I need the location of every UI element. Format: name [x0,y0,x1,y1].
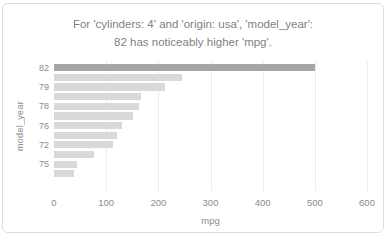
x-tick-label: 200 [150,197,166,208]
bar [54,170,74,177]
x-tick-label: 600 [359,197,375,208]
x-tick-label: 400 [255,197,271,208]
bar [54,74,182,81]
gridline [263,61,264,191]
gridline [367,61,368,191]
bar-model-year-78 [54,103,139,110]
bar [54,93,141,100]
bar-model-year-75 [54,161,77,168]
bar [54,112,133,119]
x-tick-label: 500 [307,197,323,208]
chart-title: For 'cylinders: 4' and 'origin: usa', 'm… [3,15,383,51]
gridline [315,61,316,191]
y-tick-label: 75 [3,159,49,169]
y-axis-ticks: 827978767275 [3,61,49,191]
x-tick-label: 0 [51,197,56,208]
x-tick-label: 300 [203,197,219,208]
x-tick-label: 100 [98,197,114,208]
gridline [211,61,212,191]
chart-title-line-2: 82 has noticeably higher 'mpg'. [3,33,383,51]
bar [54,132,117,139]
bar [54,151,94,158]
y-tick-label: 72 [3,140,49,150]
chart-title-line-1: For 'cylinders: 4' and 'origin: usa', 'm… [3,15,383,33]
bar-model-year-82 [54,64,315,71]
y-tick-label: 78 [3,101,49,111]
y-tick-label: 76 [3,121,49,131]
bar-model-year-76 [54,122,122,129]
plot-area [54,61,367,191]
y-tick-label: 82 [3,63,49,73]
bar-model-year-79 [54,83,165,90]
x-axis-ticks: 0100200300400500600 [54,197,367,209]
y-tick-label: 79 [3,82,49,92]
chart-card: For 'cylinders: 4' and 'origin: usa', 'm… [2,3,384,233]
x-axis-label: mpg [54,215,367,226]
bar-model-year-72 [54,141,113,148]
